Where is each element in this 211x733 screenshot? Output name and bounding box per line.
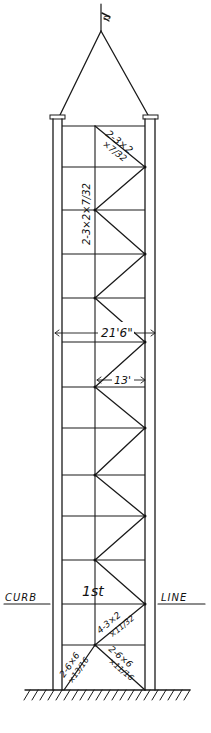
ground-hatching bbox=[24, 690, 190, 700]
roof-triangle bbox=[60, 31, 148, 115]
flag-label: Ŋ bbox=[102, 14, 111, 22]
line-label: LINE bbox=[161, 592, 187, 603]
dimension-inner-label: 13' bbox=[114, 374, 131, 387]
curb-label: CURB bbox=[5, 592, 37, 603]
joint-dots bbox=[94, 166, 147, 647]
left-column-cap bbox=[50, 115, 65, 119]
tower-elevation-drawing: Ŋ 2-3×2 ×7/32 2-3×2×7/32 21'6" 13' 1st C… bbox=[0, 0, 211, 733]
level-label: 1st bbox=[82, 583, 104, 599]
label-column-strut: 2-3×2×7/32 bbox=[81, 183, 92, 245]
dimension-overall-label: 21'6" bbox=[101, 326, 133, 340]
